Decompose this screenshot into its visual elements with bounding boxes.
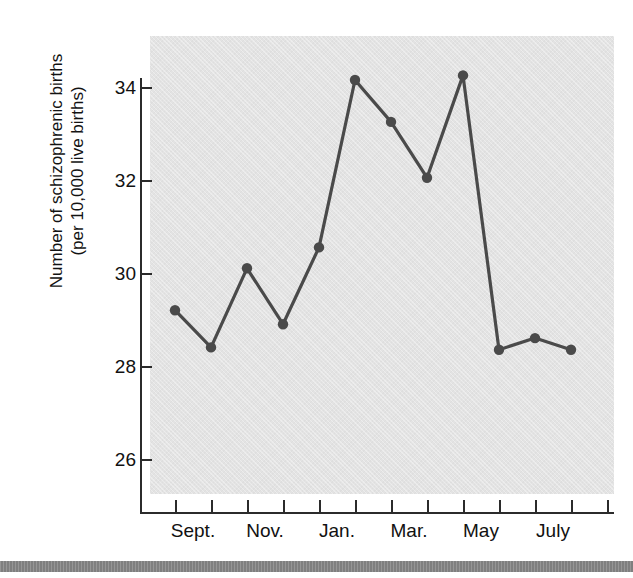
data-point-marker [494, 345, 504, 355]
data-point-marker [278, 319, 288, 329]
bottom-rule [0, 561, 633, 572]
chart-figure: Number of schizophrenic births (per 10,0… [0, 0, 633, 578]
data-point-marker [566, 345, 576, 355]
data-point-marker [386, 117, 396, 127]
data-point-marker [242, 263, 252, 273]
data-series-line [0, 0, 633, 578]
data-point-marker [530, 333, 540, 343]
data-point-marker [458, 70, 468, 80]
data-point-marker [422, 173, 432, 183]
data-point-marker [314, 242, 324, 252]
data-point-marker [350, 75, 360, 85]
data-point-marker [206, 342, 216, 352]
data-point-marker [170, 305, 180, 315]
